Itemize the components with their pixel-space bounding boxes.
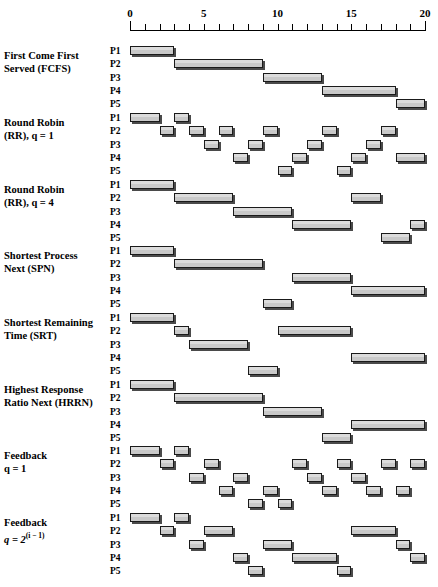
process-label-p3: P3 — [110, 339, 121, 352]
process-track — [130, 152, 438, 165]
algorithm-name-line1: First Come First — [4, 49, 104, 62]
process-label-p1: P1 — [110, 45, 121, 58]
gantt-bar — [322, 126, 337, 135]
gantt-bar — [396, 540, 411, 549]
algorithm-block-spn: Shortest ProcessNext (SPN)P1P2P3P4P5 — [0, 245, 438, 312]
algorithm-name-line2: Time (SRT) — [4, 329, 104, 342]
algorithm-block-rr4: Round Robin(RR), q = 4P1P2P3P4P5 — [0, 179, 438, 246]
axis-tick — [174, 24, 175, 31]
algorithm-name-line1: Shortest Remaining — [4, 316, 104, 329]
process-row: P5 — [110, 298, 438, 311]
gantt-bar — [263, 486, 278, 495]
process-row: P1 — [110, 112, 438, 125]
gantt-bar — [174, 446, 189, 455]
process-track — [130, 285, 438, 298]
process-track — [130, 179, 438, 192]
process-row: P2 — [110, 125, 438, 138]
gantt-bar — [189, 540, 204, 549]
process-track — [130, 379, 438, 392]
gantt-bar — [366, 486, 381, 495]
gantt-bar — [174, 259, 263, 268]
gantt-bar — [351, 420, 425, 429]
process-label-p1: P1 — [110, 112, 121, 125]
process-track — [130, 565, 438, 578]
process-row: P4 — [110, 152, 438, 165]
gantt-bar — [160, 526, 175, 535]
axis-tick — [381, 24, 382, 31]
algorithm-name-fb2i: Feedbackq = 2(i − 1) — [4, 516, 104, 546]
process-row: P1 — [110, 45, 438, 58]
process-row: P1 — [110, 245, 438, 258]
process-track — [130, 272, 438, 285]
process-label-p2: P2 — [110, 192, 121, 205]
axis-tick — [351, 24, 352, 31]
process-label-p2: P2 — [110, 258, 121, 271]
axis-tick — [410, 24, 411, 31]
process-track — [130, 525, 438, 538]
process-row: P4 — [110, 485, 438, 498]
process-rows: P1P2P3P4P5 — [110, 112, 438, 179]
process-label-p3: P3 — [110, 272, 121, 285]
gantt-bar — [233, 207, 292, 216]
axis-tick — [189, 24, 190, 31]
process-rows: P1P2P3P4P5 — [110, 512, 438, 579]
gantt-bar — [130, 313, 174, 322]
algorithm-block-hrrn: Highest ResponseRatio Next (HRRN)P1P2P3P… — [0, 379, 438, 446]
process-track — [130, 232, 438, 245]
process-label-p4: P4 — [110, 85, 121, 98]
process-row: P5 — [110, 365, 438, 378]
process-row: P4 — [110, 352, 438, 365]
gantt-bar — [322, 433, 352, 442]
process-label-p2: P2 — [110, 325, 121, 338]
process-track — [130, 419, 438, 432]
process-row: P5 — [110, 232, 438, 245]
gantt-bar — [351, 153, 366, 162]
process-track — [130, 219, 438, 232]
process-row: P2 — [110, 325, 438, 338]
process-row: P4 — [110, 285, 438, 298]
process-rows: P1P2P3P4P5 — [110, 379, 438, 446]
algorithm-name-line2: Next (SPN) — [4, 262, 104, 275]
algorithm-name-line1: Feedback — [4, 449, 104, 462]
gantt-bar — [292, 153, 307, 162]
gantt-bar — [130, 46, 174, 55]
algorithm-name-fb1: Feedbackq = 1 — [4, 449, 104, 475]
process-label-p3: P3 — [110, 72, 121, 85]
algorithm-name-line1: Shortest Process — [4, 249, 104, 262]
process-track — [130, 552, 438, 565]
process-row: P1 — [110, 379, 438, 392]
axis-tick — [307, 24, 308, 31]
process-row: P5 — [110, 565, 438, 578]
process-track — [130, 512, 438, 525]
gantt-bar — [219, 486, 234, 495]
algorithm-name-line1: Feedback — [4, 516, 104, 529]
process-row: P3 — [110, 339, 438, 352]
process-label-p2: P2 — [110, 458, 121, 471]
process-row: P4 — [110, 85, 438, 98]
algorithm-block-rr1: Round Robin(RR), q = 1P1P2P3P4P5 — [0, 112, 438, 179]
gantt-bar — [351, 353, 425, 362]
axis-tick — [204, 24, 205, 31]
process-track — [130, 125, 438, 138]
process-row: P5 — [110, 98, 438, 111]
axis-tick — [145, 24, 146, 31]
process-track — [130, 352, 438, 365]
gantt-bar — [351, 473, 366, 482]
process-track — [130, 206, 438, 219]
process-row: P3 — [110, 539, 438, 552]
process-label-p3: P3 — [110, 539, 121, 552]
process-label-p5: P5 — [110, 365, 121, 378]
gantt-bar — [189, 126, 204, 135]
axis-tick-label: 10 — [272, 8, 283, 19]
process-track — [130, 432, 438, 445]
process-track — [130, 192, 438, 205]
algorithm-name-spn: Shortest ProcessNext (SPN) — [4, 249, 104, 275]
gantt-bar — [130, 380, 174, 389]
axis-tick — [337, 24, 338, 31]
gantt-bar — [410, 220, 425, 229]
process-row: P3 — [110, 139, 438, 152]
process-rows: P1P2P3P4P5 — [110, 245, 438, 312]
axis-tick — [278, 24, 279, 31]
axis-tick — [322, 24, 323, 31]
gantt-bar — [263, 299, 293, 308]
